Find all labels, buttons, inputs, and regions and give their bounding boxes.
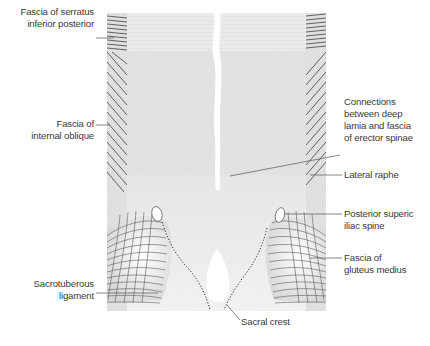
label-line: Lateral raphe bbox=[344, 169, 399, 181]
label-line: Sacral crest bbox=[241, 316, 290, 328]
label-sacral-crest: Sacral crest bbox=[241, 316, 290, 328]
label-line: Connections bbox=[344, 96, 413, 108]
label-line: Fascia of bbox=[2, 118, 94, 130]
label-line: Fascia of bbox=[344, 252, 406, 264]
label-line: Posterior superic bbox=[344, 208, 413, 220]
fascia-panel bbox=[107, 13, 326, 311]
label-line: inferior posterior bbox=[2, 18, 94, 30]
label-lateral-raphe: Lateral raphe bbox=[344, 169, 399, 181]
label-fascia-gluteus-medius: Fascia of gluteus medius bbox=[344, 252, 406, 276]
label-sacrotuberous-ligament: Sacrotuberous ligament bbox=[2, 278, 94, 302]
label-line: gluteus medius bbox=[344, 264, 406, 276]
label-line: internal oblique bbox=[2, 130, 94, 142]
label-connections-deep-lamina-erector-spinae: Connections between deep lamia and fasci… bbox=[344, 96, 413, 144]
label-posterior-superior-iliac-spine: Posterior superic iliac spine bbox=[344, 208, 413, 232]
label-line: between deep bbox=[344, 108, 413, 120]
label-line: ligament bbox=[2, 290, 94, 302]
label-line: of erector spinae bbox=[344, 132, 413, 144]
label-fascia-internal-oblique: Fascia of internal oblique bbox=[2, 118, 94, 142]
label-line: lamia and fascia bbox=[344, 120, 413, 132]
label-line: Fascia of serratus bbox=[2, 6, 94, 18]
label-line: Sacrotuberous bbox=[2, 278, 94, 290]
label-line: iliac spine bbox=[344, 220, 413, 232]
label-fascia-serratus-inferior-posterior: Fascia of serratus inferior posterior bbox=[2, 6, 94, 30]
